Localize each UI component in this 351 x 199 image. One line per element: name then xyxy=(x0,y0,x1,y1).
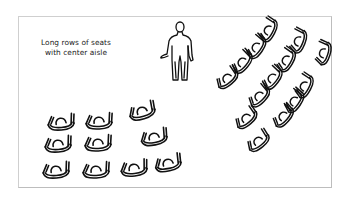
left-seat-group xyxy=(42,100,182,179)
person-figure xyxy=(161,22,193,80)
right-seat-group xyxy=(213,16,333,155)
seating-illustration xyxy=(0,0,351,199)
